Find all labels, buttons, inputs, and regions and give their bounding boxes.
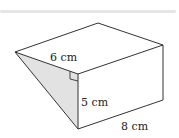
label-6cm: 6 cm: [50, 51, 78, 64]
label-8cm: 8 cm: [121, 120, 149, 133]
prism-diagram: 6 cm 5 cm 8 cm: [0, 0, 179, 138]
label-5cm: 5 cm: [81, 96, 109, 109]
